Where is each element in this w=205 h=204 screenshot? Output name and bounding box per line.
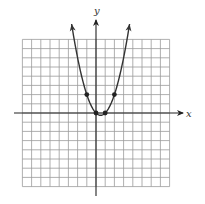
data-point: [112, 92, 117, 97]
data-point: [94, 111, 99, 116]
parabola-graph: x y: [0, 0, 205, 204]
data-point: [84, 92, 89, 97]
data-point: [103, 111, 108, 116]
parabola-curve: [70, 24, 132, 115]
y-axis-label: y: [93, 5, 100, 16]
x-axis-label: x: [186, 108, 192, 119]
